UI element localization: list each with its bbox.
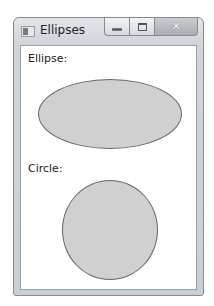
app-window: Ellipses ✕ Ellipse: Circle: [13, 17, 204, 296]
title-bar[interactable]: Ellipses ✕ [14, 18, 203, 45]
ellipse-label: Ellipse: [28, 52, 67, 65]
minimize-button[interactable] [104, 18, 130, 36]
ellipse-shape [38, 79, 182, 149]
client-area: Ellipse: Circle: [20, 45, 197, 290]
minimize-icon [112, 28, 122, 31]
close-icon: ✕ [171, 20, 180, 33]
maximize-button[interactable] [130, 18, 155, 36]
window-title: Ellipses [40, 23, 85, 37]
window-app-icon[interactable] [21, 26, 35, 37]
caption-buttons: ✕ [104, 18, 198, 36]
circle-shape [62, 180, 158, 280]
circle-label: Circle: [28, 162, 63, 175]
close-button[interactable]: ✕ [155, 18, 198, 36]
maximize-icon [138, 23, 147, 31]
